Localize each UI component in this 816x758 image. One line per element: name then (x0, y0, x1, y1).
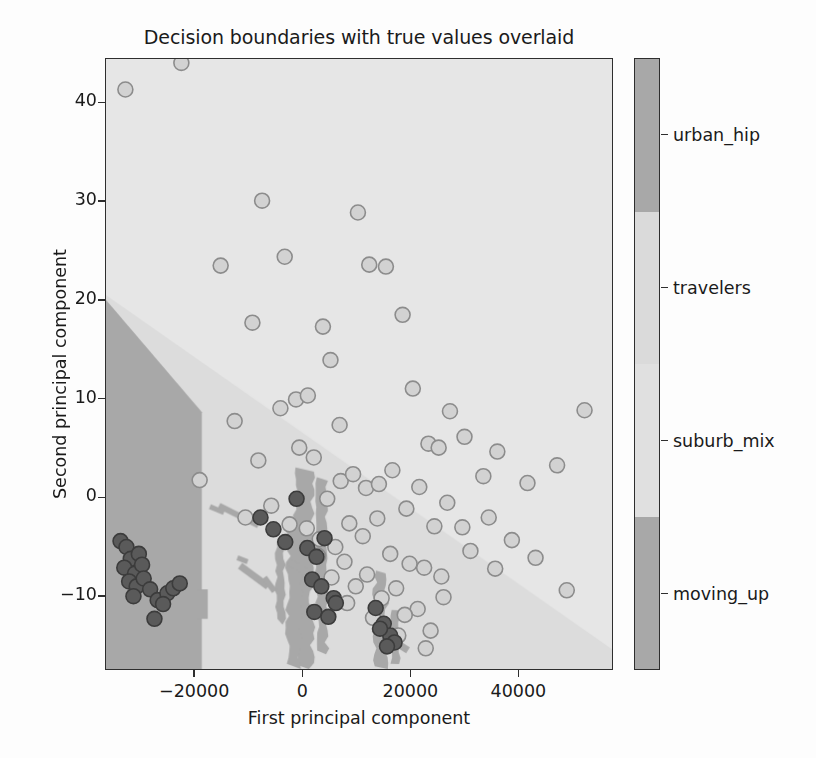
y-tick-label: 30 (75, 189, 97, 209)
scatter-point (245, 315, 260, 330)
colorbar-segment (635, 364, 659, 517)
scatter-point (118, 82, 133, 97)
scatter-point (277, 249, 292, 264)
scatter-point (350, 205, 365, 220)
colorbar[interactable] (634, 58, 660, 670)
x-tick-label: 20000 (382, 681, 438, 701)
scatter-point (135, 557, 150, 572)
scatter-point (213, 258, 228, 273)
colorbar-tick-mark (661, 440, 668, 441)
scatter-point (360, 567, 375, 582)
scatter-points-layer (106, 59, 612, 669)
scatter-point (289, 491, 304, 506)
scatter-point (412, 480, 427, 495)
scatter-point (273, 401, 288, 416)
scatter-point (383, 546, 398, 561)
scatter-point (306, 450, 321, 465)
scatter-point (440, 495, 455, 510)
x-tick-label: 40000 (491, 681, 547, 701)
scatter-point (346, 467, 361, 482)
y-tick-mark (98, 595, 105, 596)
scatter-point (227, 414, 242, 429)
scatter-point (442, 404, 457, 419)
colorbar-tick-mark (661, 134, 668, 135)
scatter-point (348, 579, 363, 594)
scatter-point (457, 429, 472, 444)
scatter-point (355, 529, 370, 544)
scatter-point (342, 516, 357, 531)
y-tick-label: 40 (75, 90, 97, 110)
scatter-point (385, 463, 400, 478)
scatter-point (402, 556, 417, 571)
scatter-point (192, 473, 207, 488)
scatter-point (463, 543, 478, 558)
scatter-point (427, 519, 442, 534)
scatter-point (528, 550, 543, 565)
scatter-series-dark-points (113, 491, 402, 654)
scatter-point (174, 59, 189, 70)
scatter-point (292, 440, 307, 455)
scatter-point (278, 535, 293, 550)
scatter-point (238, 510, 253, 525)
scatter-point (455, 520, 470, 535)
colorbar-label-suburb-mix: suburb_mix (673, 431, 775, 451)
scatter-point (405, 381, 420, 396)
scatter-point (423, 623, 438, 638)
scatter-point (255, 193, 270, 208)
scatter-point (504, 533, 519, 548)
x-tick-label: −20000 (159, 681, 229, 701)
scatter-point (488, 561, 503, 576)
scatter-point (380, 639, 395, 654)
scatter-point (314, 579, 329, 594)
scatter-point (282, 517, 297, 532)
colorbar-tick-mark (661, 593, 668, 594)
colorbar-tick-mark (661, 287, 668, 288)
scatter-point (481, 510, 496, 525)
x-tick-mark (410, 670, 411, 677)
colorbar-label-travelers: travelers (673, 278, 751, 298)
x-tick-label: 0 (297, 681, 308, 701)
scatter-point (417, 560, 432, 575)
colorbar-segment (635, 517, 659, 670)
scatter-point (172, 576, 187, 591)
scatter-series-light-points (118, 59, 592, 656)
scatter-point (397, 607, 412, 622)
y-tick-mark (98, 200, 105, 201)
y-tick-label: 10 (75, 387, 97, 407)
x-axis-label: First principal component (105, 708, 613, 728)
scatter-point (300, 388, 315, 403)
scatter-point (264, 498, 279, 513)
y-tick-mark (98, 497, 105, 498)
scatter-point (253, 510, 268, 525)
scatter-point (362, 257, 377, 272)
colorbar-label-moving-up: moving_up (673, 584, 769, 604)
scatter-point (126, 589, 141, 604)
x-tick-mark (193, 670, 194, 677)
colorbar-segment (635, 59, 659, 212)
scatter-point (332, 418, 347, 433)
scatter-point (309, 549, 324, 564)
scatter-point (395, 307, 410, 322)
scatter-point (520, 476, 535, 491)
plot-area (105, 58, 613, 670)
scatter-point (147, 611, 162, 626)
y-tick-label: −10 (60, 584, 97, 604)
scatter-point (307, 604, 322, 619)
y-tick-mark (98, 398, 105, 399)
scatter-point (399, 501, 414, 516)
scatter-point (320, 491, 335, 506)
scatter-point (156, 597, 171, 612)
y-tick-mark (98, 299, 105, 300)
page-title: Decision boundaries with true values ove… (105, 26, 613, 48)
scatter-point (559, 583, 574, 598)
scatter-point (389, 581, 404, 596)
scatter-point (434, 569, 449, 584)
scatter-point (373, 621, 388, 636)
scatter-point (371, 477, 386, 492)
scatter-point (328, 596, 343, 611)
scatter-point (337, 554, 352, 569)
y-tick-mark (98, 102, 105, 103)
scatter-point (431, 440, 446, 455)
y-tick-label: 20 (75, 288, 97, 308)
scatter-point (266, 522, 281, 537)
